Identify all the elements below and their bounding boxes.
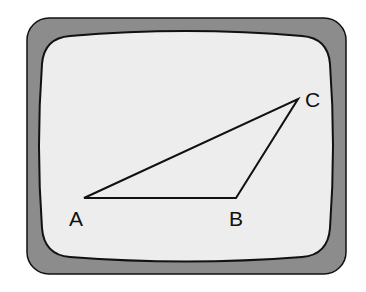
- vertex-label-c: C: [305, 88, 320, 111]
- monitor-screen: [39, 31, 333, 262]
- vertex-label-a: A: [69, 207, 83, 230]
- crt-diagram: A B C: [0, 0, 366, 292]
- vertex-label-b: B: [229, 207, 243, 230]
